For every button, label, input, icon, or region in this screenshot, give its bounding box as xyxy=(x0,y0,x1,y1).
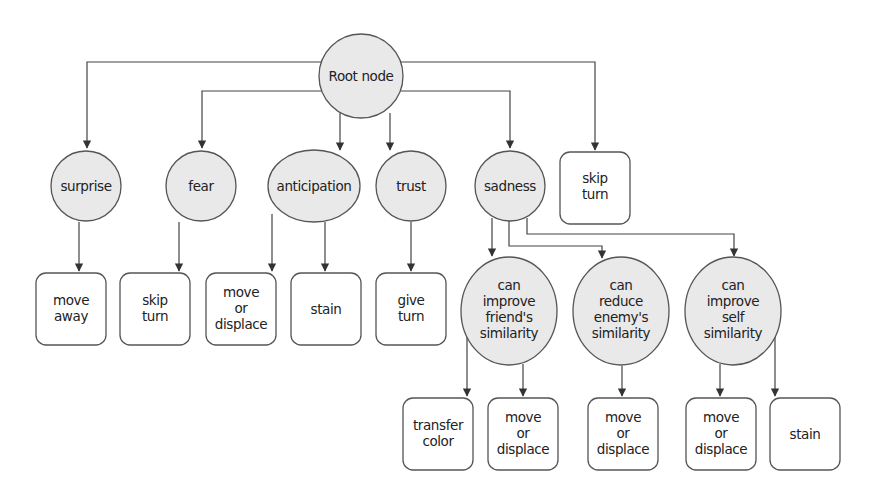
label-line: turn xyxy=(398,308,424,324)
edge-root-fear xyxy=(202,91,324,148)
node-anticipation[interactable]: anticipation xyxy=(268,150,360,222)
label-line: friend's xyxy=(485,309,532,325)
label-line: move xyxy=(703,409,739,425)
action-move-or-displace[interactable]: moveordisplace xyxy=(206,273,276,345)
label-line: move xyxy=(605,409,641,425)
label-line: similarity xyxy=(592,325,651,341)
label-line: move xyxy=(53,292,89,308)
svg-text:sadness: sadness xyxy=(484,178,536,194)
anticipation-label: anticipation xyxy=(277,178,352,194)
trust-label: trust xyxy=(396,178,426,194)
svg-text:stain: stain xyxy=(311,301,342,317)
condition-friend[interactable]: canimprovefriend'ssimilarity xyxy=(461,257,557,365)
node-sadness[interactable]: sadness xyxy=(475,151,545,221)
label-line: stain xyxy=(790,426,821,442)
decision-tree-diagram: Root node surprise fear anticipation tru… xyxy=(0,0,882,496)
label-line: displace xyxy=(215,316,268,332)
svg-text:moveaway: moveaway xyxy=(53,292,89,324)
surprise-label: surprise xyxy=(60,178,111,194)
edge-root-sadness xyxy=(401,91,510,148)
svg-text:skipturn: skipturn xyxy=(142,292,168,324)
skipturn-line1: skip xyxy=(582,170,608,186)
node-skip-turn-root[interactable]: skipturn xyxy=(560,152,630,224)
node-trust[interactable]: trust xyxy=(376,151,446,221)
root-node[interactable]: Root node xyxy=(319,34,403,118)
edge-sadness-enemy xyxy=(509,221,602,258)
label-line: or xyxy=(234,300,248,316)
svg-text:Root node: Root node xyxy=(329,68,394,84)
action-enemy-move[interactable]: moveordisplace xyxy=(588,398,658,470)
level1-edges xyxy=(79,214,411,271)
condition-self[interactable]: canimproveselfsimilarity xyxy=(685,257,781,365)
svg-text:stain: stain xyxy=(790,426,821,442)
skipturn-line2: turn xyxy=(582,186,608,202)
condition-enemy[interactable]: canreduceenemy'ssimilarity xyxy=(573,257,669,365)
label-line: or xyxy=(714,425,728,441)
node-surprise[interactable]: surprise xyxy=(51,151,121,221)
label-line: enemy's xyxy=(594,309,649,325)
label-line: displace xyxy=(695,441,748,457)
edge-root-skipturn xyxy=(401,62,595,150)
action-transfer-color[interactable]: transfercolor xyxy=(403,398,473,470)
label-line: displace xyxy=(497,441,550,457)
svg-text:skipturn: skipturn xyxy=(582,170,608,202)
action-skip-turn[interactable]: skipturn xyxy=(120,273,190,345)
label-line: can xyxy=(721,277,744,293)
node-fear[interactable]: fear xyxy=(166,151,236,221)
edge-root-surprise xyxy=(87,62,322,148)
fear-label: fear xyxy=(188,178,214,194)
svg-text:trust: trust xyxy=(396,178,426,194)
root-label: Root node xyxy=(329,68,394,84)
svg-text:surprise: surprise xyxy=(60,178,111,194)
action-self-stain[interactable]: stain xyxy=(770,398,840,470)
label-line: turn xyxy=(142,308,168,324)
label-line: reduce xyxy=(599,293,643,309)
label-line: move xyxy=(223,284,259,300)
label-line: away xyxy=(54,308,88,324)
action-give-turn[interactable]: giveturn xyxy=(376,273,446,345)
label-line: or xyxy=(516,425,530,441)
label-line: similarity xyxy=(704,325,763,341)
action-friend-move[interactable]: moveordisplace xyxy=(488,398,558,470)
label-line: transfer xyxy=(413,417,464,433)
label-line: similarity xyxy=(480,325,539,341)
label-line: improve xyxy=(483,293,536,309)
svg-text:anticipation: anticipation xyxy=(277,178,352,194)
action-move-away[interactable]: moveaway xyxy=(36,273,106,345)
label-line: displace xyxy=(597,441,650,457)
label-line: improve xyxy=(707,293,760,309)
svg-text:giveturn: giveturn xyxy=(397,292,424,324)
label-line: can xyxy=(497,277,520,293)
label-line: or xyxy=(616,425,630,441)
label-line: move xyxy=(505,409,541,425)
action-self-move[interactable]: moveordisplace xyxy=(686,398,756,470)
label-line: stain xyxy=(311,301,342,317)
label-line: skip xyxy=(142,292,168,308)
label-line: can xyxy=(609,277,632,293)
action-stain[interactable]: stain xyxy=(291,273,361,345)
label-line: self xyxy=(722,309,746,325)
label-line: color xyxy=(422,433,454,449)
label-line: give xyxy=(397,292,424,308)
edge-sadness-self xyxy=(527,218,734,256)
sadness-label: sadness xyxy=(484,178,536,194)
svg-text:fear: fear xyxy=(188,178,214,194)
